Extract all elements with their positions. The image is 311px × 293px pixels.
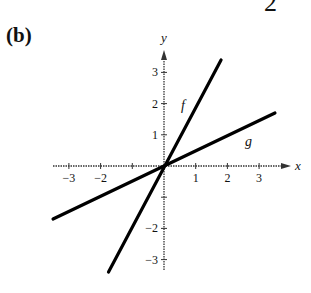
x-tick-label: 2 [224,171,230,185]
y-tick-label: 1 [152,128,158,142]
graph: xy−3−2123−3−2123fg [0,0,311,293]
y-axis-label: y [159,30,167,45]
x-tick-label: 3 [256,171,262,185]
x-axis-arrow-icon [281,163,291,169]
x-tick-label: −2 [94,171,107,185]
label-g: g [245,134,252,149]
y-axis-arrow-icon [161,50,167,60]
y-tick-label: −3 [145,253,158,267]
x-axis-label: x [294,158,301,173]
y-tick-label: −2 [145,221,158,235]
x-tick-label: 1 [193,171,199,185]
y-tick-label: 2 [152,97,158,111]
x-tick-label: −3 [63,171,76,185]
label-f: f [181,98,187,113]
y-tick-label: 3 [152,65,158,79]
